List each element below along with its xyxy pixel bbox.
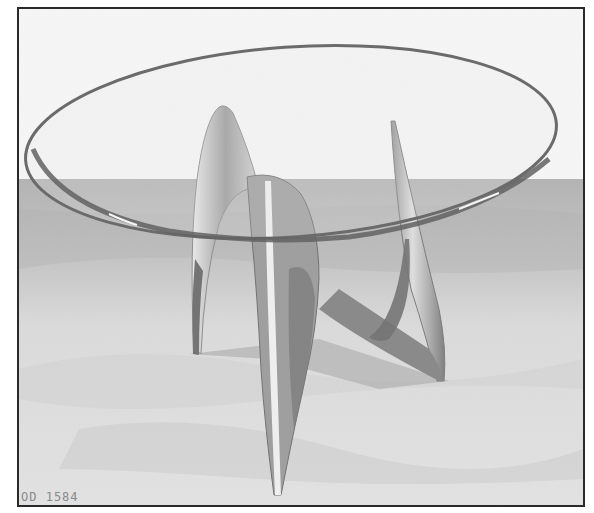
photo-frame: OD 1584 — [17, 7, 585, 507]
table-photo — [19, 9, 583, 505]
photo-caption: OD 1584 — [21, 490, 79, 504]
